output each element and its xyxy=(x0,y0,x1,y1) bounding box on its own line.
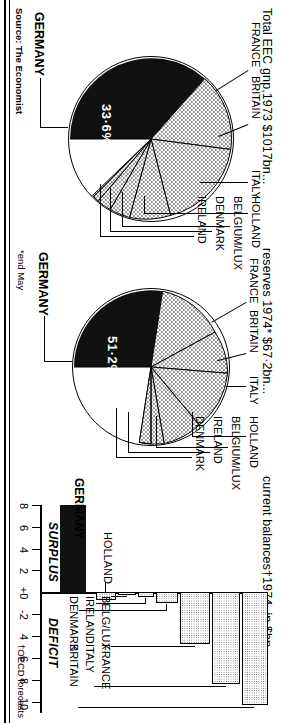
reserves-label-germany: GERMANY xyxy=(36,252,50,316)
source-credit: Source: The Economist xyxy=(14,8,25,114)
reserves-leader-germany xyxy=(44,316,45,362)
reserves-label-italy: ITALY xyxy=(248,376,260,405)
panel-current-balances: current balances†1974, in $bn 8 6 4 2 +0… xyxy=(0,470,282,723)
reserves-label-britain: BRITAIN xyxy=(248,310,260,353)
balances-tick-m2 xyxy=(32,614,42,615)
balances-leader-denmark-v xyxy=(79,610,167,611)
balances-label-ireland: IRELAND xyxy=(84,596,96,644)
reserves-leader-denmark-h xyxy=(116,408,117,458)
rotated-figure-canvas: Total EEC gnp,1973 $1017bn... xyxy=(0,0,282,723)
balances-ticklabel-0: +0 xyxy=(18,582,30,604)
gnp-label-italy: ITALY xyxy=(250,170,262,199)
reserves-leader-belgium-h xyxy=(156,416,157,448)
balances-ticklabel-m2: -2 xyxy=(18,604,30,626)
panel-reserves: reserves 1974* $67·2bn... xyxy=(0,240,282,470)
gnp-germany-percent: 33·6% xyxy=(99,104,114,145)
balances-leader-ireland-v xyxy=(96,603,146,604)
bar-italy xyxy=(212,592,240,684)
balances-tick-8 xyxy=(32,505,42,506)
reserves-label-denmark: DENMARK xyxy=(194,416,206,471)
gnp-label-ireland: IRELAND xyxy=(196,196,208,244)
balances-leader-holland xyxy=(105,582,106,593)
bar-denmark xyxy=(156,592,178,603)
balances-tick-m10 xyxy=(32,702,42,703)
gnp-pie-chart xyxy=(68,56,234,222)
balances-label-france: FRANCE xyxy=(100,644,112,689)
balances-leader-ireland-h xyxy=(145,598,146,604)
balances-ticklabel-2: 2 xyxy=(18,561,30,581)
gnp-leader-germany xyxy=(40,78,41,128)
balances-label-holland: HOLLAND xyxy=(102,532,114,584)
balances-tick-m4 xyxy=(32,636,42,637)
reserves-footnote: *end May xyxy=(16,250,27,290)
balances-leader-italy xyxy=(94,686,226,687)
balances-label-denmark: DENMARK xyxy=(68,596,80,651)
reserves-leader-italy xyxy=(226,386,246,387)
bar-britain xyxy=(242,592,268,705)
balances-chart-area: 8 6 4 2 +0 -2 4 6 8 10 SURPLUS DEFICIT xyxy=(0,470,282,723)
balances-leader-britain xyxy=(78,707,254,708)
gnp-leader-denmark-h xyxy=(110,188,111,232)
balances-leader-denmark-h xyxy=(166,604,167,611)
gnp-leader-germany-v xyxy=(40,127,68,128)
reserves-leader-france xyxy=(211,302,246,323)
reserves-leader-holland-h xyxy=(192,412,193,437)
gnp-leader-belgium-h xyxy=(122,192,123,227)
balances-tick-2 xyxy=(32,570,42,571)
balances-label-germany: GERMANY xyxy=(72,478,86,539)
bar-france xyxy=(180,592,210,644)
gnp-leader-ireland-v xyxy=(100,236,194,237)
gnp-title: Total EEC gnp,1973 $1017bn... xyxy=(260,8,274,185)
balances-tick-6 xyxy=(32,527,42,528)
panel-eec-gnp: Total EEC gnp,1973 $1017bn... xyxy=(0,0,282,240)
balances-tick-m8 xyxy=(32,680,42,681)
balances-tick-m6 xyxy=(32,658,42,659)
economist-figure: Total EEC gnp,1973 $1017bn... xyxy=(0,0,282,723)
balances-leader-belglux-v xyxy=(111,596,127,597)
gnp-leader-holland-h xyxy=(144,196,145,214)
balances-ticklabel-6: 6 xyxy=(18,518,30,538)
reserves-leader-germany-v xyxy=(44,361,72,362)
balances-zone-surplus: SURPLUS xyxy=(46,522,60,582)
balances-label-britain: BRITAIN xyxy=(68,644,80,687)
gnp-leader-italy xyxy=(200,182,248,183)
balances-leader-france xyxy=(111,646,195,647)
gnp-leader-france xyxy=(216,70,249,91)
balances-ticklabel-8: 8 xyxy=(18,496,30,516)
gnp-label-germany: GERMANY xyxy=(32,12,46,76)
balances-zone-deficit: DEFICIT xyxy=(46,618,60,667)
balances-footnote: †OECD forecasts xyxy=(16,644,27,718)
gnp-label-france: FRANCE xyxy=(250,22,262,67)
reserves-label-holland: HOLLAND xyxy=(248,416,260,468)
reserves-germany-percent: 51·2% xyxy=(105,336,120,377)
balances-ticklabel-4: 4 xyxy=(18,540,30,560)
reserves-label-ireland: IRELAND xyxy=(212,416,224,464)
bar-ireland xyxy=(138,592,154,597)
balances-tick-4 xyxy=(32,549,42,550)
reserves-label-france: FRANCE xyxy=(248,258,260,303)
reserves-leader-ireland-h xyxy=(128,412,129,453)
balances-label-italy: ITALY xyxy=(84,644,96,673)
gnp-pie-svg xyxy=(69,57,233,221)
balances-axis-rule xyxy=(40,505,42,713)
reserves-pie-chart xyxy=(72,288,230,446)
bar-belg-lux xyxy=(118,592,136,595)
reserves-title: reserves 1974* $67·2bn... xyxy=(260,248,274,394)
reserves-leader-denmark-v xyxy=(116,457,192,458)
page-border-rule-thin xyxy=(9,0,10,723)
gnp-leader-ireland-h xyxy=(100,184,101,237)
page-border-rule xyxy=(4,0,6,723)
gnp-label-britain: BRITAIN xyxy=(250,76,262,119)
